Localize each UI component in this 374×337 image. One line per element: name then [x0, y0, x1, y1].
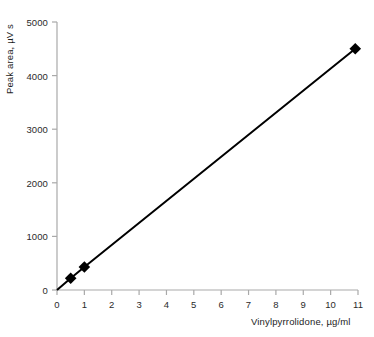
x-axis-tick-label: 7 — [246, 299, 251, 310]
x-axis-tick-label: 1 — [82, 299, 87, 310]
x-axis-tick-label: 2 — [109, 299, 114, 310]
y-axis-tick-label: 3000 — [0, 124, 48, 135]
y-axis-tick-label: 2000 — [0, 177, 48, 188]
series-line — [57, 49, 355, 290]
x-axis-tick-label: 10 — [325, 299, 336, 310]
y-axis-title: Peak area, µV s — [4, 24, 15, 94]
x-axis-tick-label: 4 — [164, 299, 169, 310]
x-axis-tick-label: 8 — [273, 299, 278, 310]
x-axis-tick-label: 11 — [353, 299, 363, 310]
calibration-chart: 010002000300040005000 01234567891011 Pea… — [0, 0, 374, 337]
y-axis-tick-label: 0 — [0, 285, 48, 296]
x-axis-tick-label: 6 — [218, 299, 223, 310]
x-axis-tick-label: 9 — [301, 299, 306, 310]
plot-area — [0, 0, 374, 337]
x-axis-tick-label: 5 — [191, 299, 196, 310]
y-axis-tick-label: 1000 — [0, 231, 48, 242]
x-axis-tick-label: 0 — [54, 299, 59, 310]
x-axis-title: Vinylpyrrolidone, µg/ml — [251, 316, 351, 327]
data-series — [57, 43, 361, 290]
x-axis-tick-label: 3 — [136, 299, 141, 310]
axes — [52, 22, 358, 295]
